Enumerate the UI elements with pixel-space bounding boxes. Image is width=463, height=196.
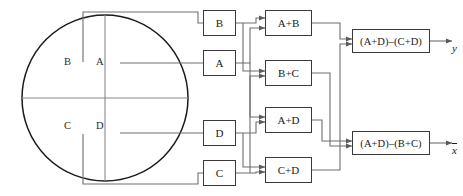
output-label-x-text: x [452,144,457,156]
output-label-x: x [452,144,457,156]
wire-quadB-to-boxB [83,12,203,62]
sum-box-c-plus-d[interactable]: C+D [265,157,312,183]
wire-A-to-AB [236,28,265,63]
wire-B-to-AB [236,18,265,23]
fanout-wires-group [236,18,265,173]
block-diagram: B A C D B A D C A+B B+C A+D C+D (A+D)–(C… [0,0,463,196]
wire-B-to-BC [243,23,265,71]
sum-to-output-wires-group [312,23,352,170]
sum-box-a-plus-b[interactable]: A+B [265,10,312,36]
quadrant-label-d: D [96,120,104,131]
wire-BC-to-out-x [312,73,352,146]
input-box-d[interactable]: D [203,120,236,146]
wire-C-to-BC [236,76,265,173]
sum-box-a-plus-d[interactable]: A+D [265,107,312,133]
wire-C-to-CD [250,172,265,173]
detector-graphic-group [22,15,188,181]
input-box-b[interactable]: B [203,10,236,36]
input-box-c[interactable]: C [203,160,236,186]
quadrant-label-a: A [96,56,104,67]
output-box-y[interactable]: (A+D)–(C+D) [352,29,430,53]
wire-CD-to-out-y [312,44,352,170]
output-arrow-group [430,41,452,143]
sum-box-b-plus-c[interactable]: B+C [265,60,312,86]
wire-AB-to-out-y [312,23,352,39]
wire-AD-to-out-x [312,120,352,141]
input-box-a[interactable]: A [203,50,236,76]
output-box-x[interactable]: (A+D)–(B+C) [352,131,430,155]
output-label-y: y [452,42,457,54]
quadrant-label-b: B [64,56,71,67]
wire-D-to-CD [243,133,265,167]
quadrant-label-c: C [64,120,71,131]
wire-quadC-to-boxC [83,134,203,184]
